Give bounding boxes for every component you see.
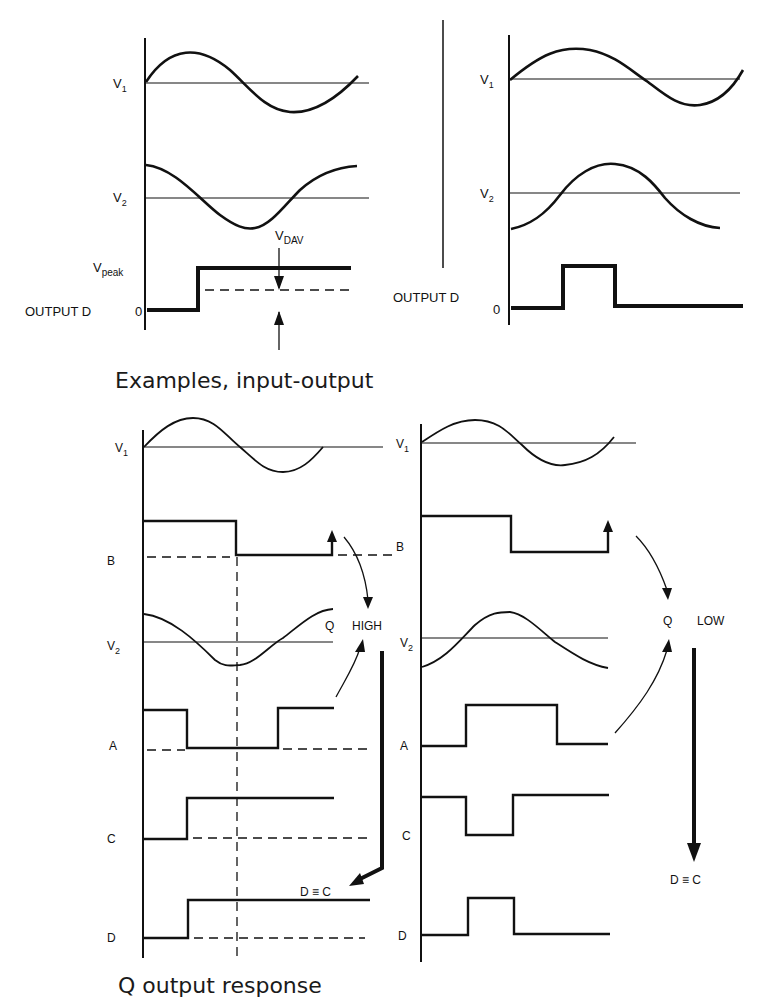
b-label-right: B bbox=[396, 540, 404, 554]
top-right-panel: V1 V2 OUTPUT D 0 bbox=[393, 35, 743, 325]
v1-waveform bbox=[144, 418, 323, 472]
a-to-q-arrowhead bbox=[355, 639, 365, 652]
b-to-q-arrowhead bbox=[662, 588, 672, 600]
d-waveform bbox=[422, 898, 610, 935]
d-label: D bbox=[398, 929, 407, 943]
output-d-label: OUTPUT D bbox=[393, 290, 459, 305]
v2-label: V2 bbox=[400, 636, 413, 653]
v1-label: V1 bbox=[480, 72, 494, 90]
v1-waveform bbox=[146, 53, 358, 113]
q-low-result-arrowhead bbox=[687, 843, 701, 862]
waveform-diagram: V1 V2 Vpeak VDAV OUTPUT D 0 V1 V2 OUTPUT… bbox=[0, 0, 759, 1004]
q-high-result-arrowhead bbox=[349, 873, 364, 886]
v2-label: V2 bbox=[480, 186, 494, 204]
b-rise-arrowhead bbox=[603, 520, 613, 532]
q-label: Q bbox=[663, 614, 672, 628]
b-to-q-arrow bbox=[344, 537, 368, 600]
v2-label: V2 bbox=[113, 190, 127, 208]
b-to-q-arrowhead bbox=[363, 597, 373, 609]
output-d-waveform bbox=[511, 266, 743, 308]
d-equiv-c-label: D ≡ C bbox=[300, 885, 331, 899]
a-to-q-arrow bbox=[336, 648, 360, 697]
vdav-arrowhead-up bbox=[274, 311, 284, 325]
v1-waveform bbox=[510, 49, 743, 106]
v1-label: V1 bbox=[115, 441, 128, 458]
a-to-q-arrowhead bbox=[662, 639, 672, 652]
zero-label: 0 bbox=[135, 304, 142, 319]
v2-waveform bbox=[144, 609, 333, 666]
bottom-right-panel: V1 V2 A C D Q LOW D ≡ C bbox=[396, 420, 725, 962]
v2-waveform bbox=[146, 165, 357, 228]
v2-waveform bbox=[511, 164, 720, 229]
v2-waveform bbox=[422, 612, 608, 668]
b-waveform bbox=[422, 516, 608, 552]
a-to-q-arrow bbox=[615, 650, 667, 733]
state-high-label: HIGH bbox=[352, 619, 382, 633]
c-waveform bbox=[144, 798, 334, 839]
vdav-arrowhead-down bbox=[274, 276, 284, 290]
a-label: A bbox=[400, 739, 408, 753]
v2-label: V2 bbox=[107, 639, 120, 656]
d-label: D bbox=[107, 931, 116, 945]
bottom-caption: Q output response bbox=[118, 973, 322, 998]
c-label: C bbox=[107, 832, 116, 846]
b-waveform bbox=[144, 521, 332, 555]
b-to-q-arrow bbox=[636, 536, 667, 590]
c-waveform bbox=[422, 795, 609, 835]
vdav-label: VDAV bbox=[275, 228, 304, 246]
a-waveform bbox=[422, 705, 608, 746]
d-equiv-c-label: D ≡ C bbox=[670, 873, 701, 887]
output-d-waveform bbox=[147, 268, 351, 310]
b-label: B bbox=[107, 554, 115, 568]
top-caption: Examples, input-output bbox=[115, 368, 374, 393]
bottom-left-panel: V1 B V2 A C D Q HIGH D ≡ C bbox=[107, 418, 395, 962]
d-waveform bbox=[144, 900, 370, 938]
a-waveform bbox=[144, 708, 334, 748]
v1-label: V1 bbox=[113, 76, 127, 94]
c-label: C bbox=[402, 829, 411, 843]
b-rise-arrowhead bbox=[327, 530, 337, 542]
state-low-label: LOW bbox=[697, 614, 725, 628]
top-left-panel: V1 V2 Vpeak VDAV OUTPUT D 0 bbox=[25, 38, 369, 350]
v1-label: V1 bbox=[396, 437, 409, 454]
q-high-result-arrow bbox=[358, 651, 382, 880]
q-label: Q bbox=[325, 619, 334, 633]
vpeak-label: Vpeak bbox=[93, 260, 124, 278]
output-d-label: OUTPUT D bbox=[25, 304, 91, 319]
a-label: A bbox=[109, 739, 117, 753]
zero-label: 0 bbox=[493, 302, 500, 317]
